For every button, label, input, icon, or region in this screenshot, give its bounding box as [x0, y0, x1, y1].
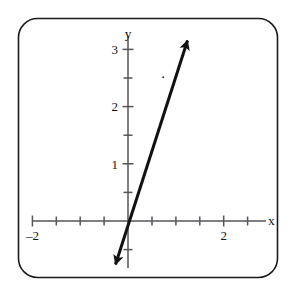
x-axis: –2 2 x — [25, 213, 275, 243]
y-axis: 1 2 3 y — [112, 26, 134, 268]
line-direction-marker — [160, 77, 163, 87]
graph-figure: –2 2 x 1 2 3 y — [0, 0, 294, 296]
x-axis-label: x — [268, 213, 275, 228]
y-axis-label: y — [125, 26, 132, 41]
y-tick-label-2: 2 — [112, 99, 119, 114]
line-series-y-equals-3x — [116, 41, 188, 265]
y-tick-label-1: 1 — [112, 157, 119, 172]
coordinate-plane: –2 2 x 1 2 3 y — [0, 0, 294, 296]
line-segment — [116, 41, 188, 265]
x-tick-label-2: 2 — [220, 228, 227, 243]
y-tick-label-3: 3 — [112, 42, 119, 57]
x-tick-label--2: –2 — [25, 228, 39, 243]
figure-border — [19, 19, 278, 278]
